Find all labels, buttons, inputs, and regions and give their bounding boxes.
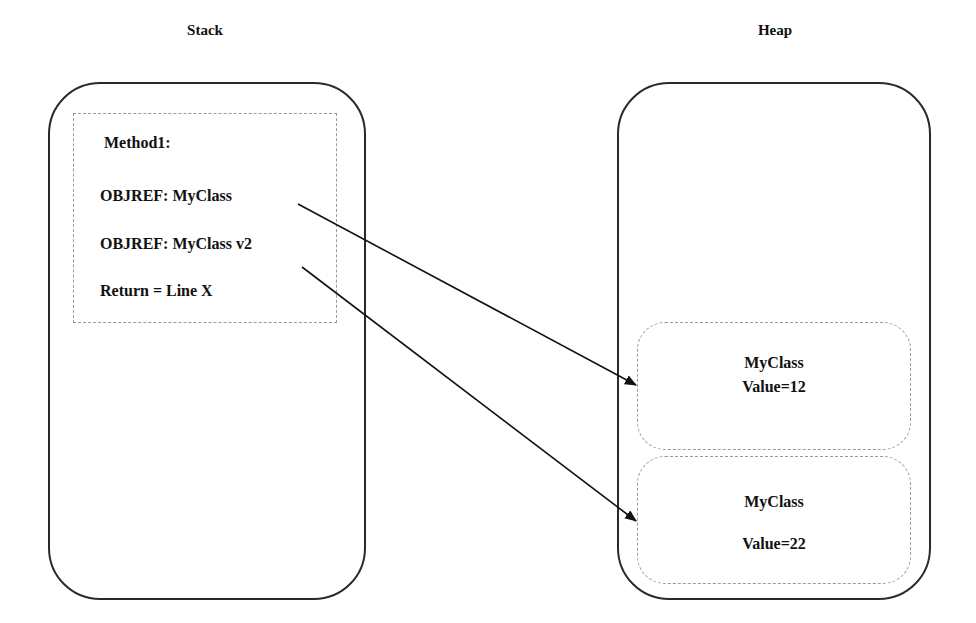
method-label: Method1: <box>104 134 171 152</box>
heap-object-2-value: Value=22 <box>638 535 910 553</box>
heap-object-2: MyClass Value=22 <box>637 456 911 584</box>
stack-entry-return: Return = Line X <box>100 282 213 300</box>
heap-object-1-class: MyClass <box>638 354 910 372</box>
stack-title: Stack <box>140 22 270 39</box>
heap-title: Heap <box>710 22 840 39</box>
heap-object-2-class: MyClass <box>638 493 910 511</box>
heap-object-1: MyClass Value=12 <box>637 322 911 450</box>
stack-entry-objref-1: OBJREF: MyClass <box>100 187 232 205</box>
heap-object-1-value: Value=12 <box>638 378 910 396</box>
stack-entry-objref-2: OBJREF: MyClass v2 <box>100 235 252 253</box>
